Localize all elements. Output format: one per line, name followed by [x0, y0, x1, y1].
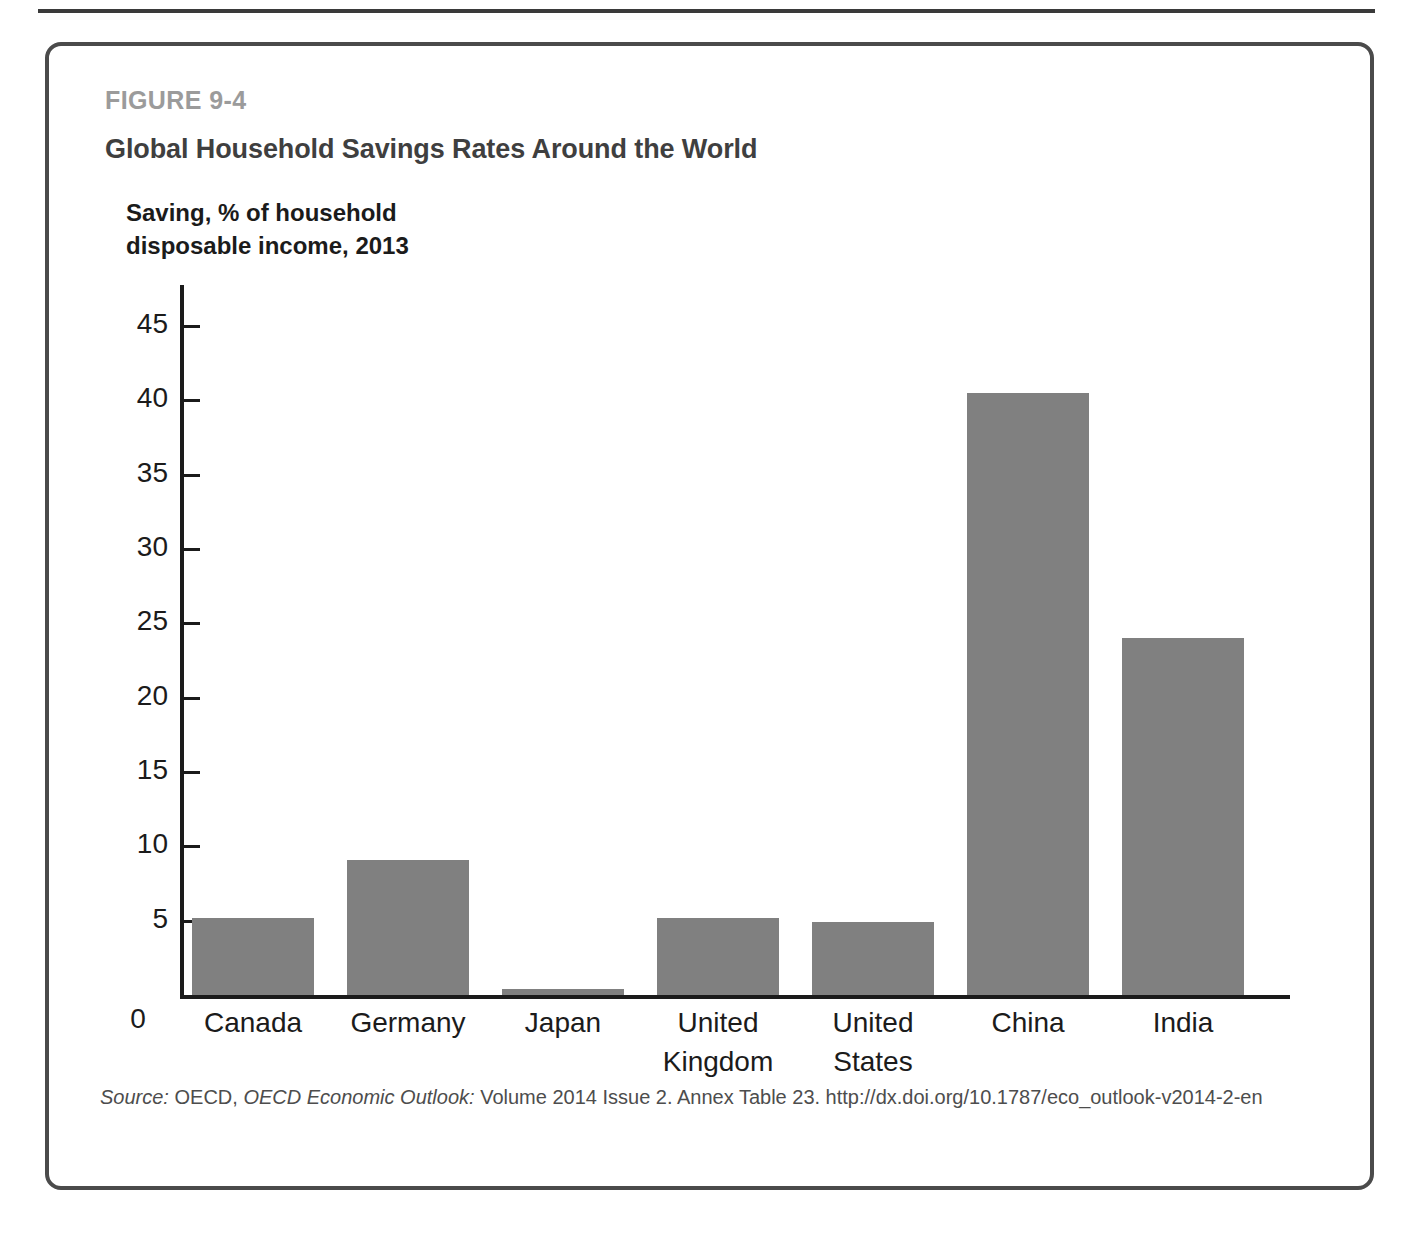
- source-prefix: Source:: [100, 1086, 169, 1108]
- source-publisher: OECD,: [175, 1086, 238, 1108]
- y-axis-caption: Saving, % of household disposable income…: [126, 196, 409, 262]
- source-publication: OECD Economic Outlook:: [243, 1086, 474, 1108]
- page-header-rule: [38, 9, 1375, 13]
- source-details: Volume 2014 Issue 2. Annex Table 23. htt…: [480, 1086, 1262, 1108]
- figure-number-label: FIGURE 9-4: [105, 86, 247, 115]
- figure-title: Global Household Savings Rates Around th…: [105, 134, 757, 165]
- source-note: Source: OECD, OECD Economic Outlook: Vol…: [100, 1086, 1320, 1109]
